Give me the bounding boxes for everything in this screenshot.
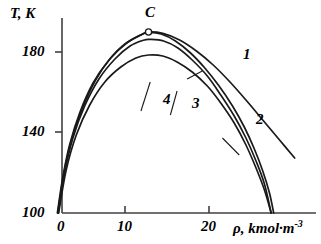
x-tick-label-0: 0 <box>57 219 65 234</box>
curve-3-path <box>58 39 271 213</box>
curve-label-4: 4 <box>163 92 171 107</box>
leader-2 <box>222 138 239 155</box>
y-tick-label-140: 140 <box>22 124 45 139</box>
annotation-markers-group <box>145 29 151 35</box>
curve-label-1: 1 <box>243 47 251 62</box>
x-axis-title-exponent: -3 <box>294 218 302 229</box>
leader-lines-group <box>141 71 239 155</box>
curve-2-path <box>58 32 274 213</box>
axis-group <box>55 18 316 213</box>
x-tick-label-10: 10 <box>117 219 132 234</box>
y-axis-title: T, K <box>10 6 35 21</box>
critical-point-marker <box>145 29 151 35</box>
x-axis-title: ρ, kmol·m-3 <box>233 219 303 236</box>
curve-4-path <box>59 55 272 213</box>
leader-3 <box>170 91 177 115</box>
y-tick-label-100: 100 <box>22 205 45 220</box>
chart-canvas <box>0 0 321 244</box>
leader-4 <box>141 82 150 111</box>
x-axis-title-text: ρ, kmol·m <box>233 220 294 236</box>
y-tick-label-180: 180 <box>22 44 45 59</box>
x-tick-label-20: 20 <box>201 219 216 234</box>
curve-label-2: 2 <box>256 112 264 127</box>
phase-diagram-figure: T, K ρ, kmol·m-3 180 140 100 0 10 20 1 2… <box>0 0 321 244</box>
curve-label-3: 3 <box>192 96 200 111</box>
critical-point-label: C <box>145 5 155 20</box>
